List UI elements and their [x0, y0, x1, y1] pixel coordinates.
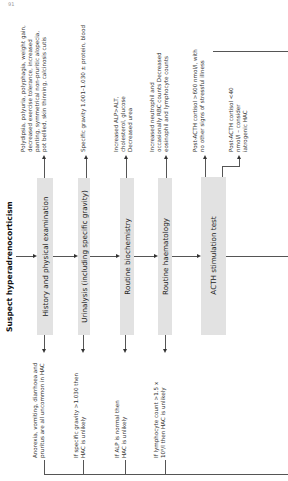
connector: [126, 158, 127, 178]
step-label: Routine haematology: [161, 178, 170, 335]
connector: [213, 51, 288, 52]
arrow-down-icon: [163, 349, 167, 353]
connector: [125, 335, 126, 349]
connector: [172, 256, 198, 257]
connector: [125, 460, 126, 474]
arrow-down-icon: [42, 349, 46, 353]
connector: [83, 460, 84, 474]
finding-biochemistry: Increased ALP>ALT, cholesterol, glucose …: [113, 70, 134, 152]
connector: [83, 335, 84, 349]
arrow-up-icon: [203, 155, 207, 159]
exclusion-history: Anorexia, vomiting, diarrhoea and prurit…: [32, 362, 46, 458]
connector: [90, 256, 117, 257]
step-label: Routine biochemistry: [123, 178, 132, 335]
connector: [222, 166, 223, 177]
step-box-history: History and physical examination: [37, 178, 53, 335]
arrow-up-icon: [42, 155, 46, 159]
connector: [239, 158, 240, 167]
arrow-up-icon: [237, 155, 241, 159]
arrow-down-icon: [81, 349, 85, 353]
exclusion-urinalysis: If specific gravity >1.030 then HAC is u…: [73, 368, 87, 458]
connector: [222, 166, 239, 167]
connector: [53, 256, 75, 257]
arrow-up-icon: [124, 155, 128, 159]
finding-urinalysis: Specific gravity 1.001–1.030 ± protein, …: [80, 24, 87, 152]
step-label: ACTH stimulation test: [209, 177, 218, 334]
connector: [44, 460, 45, 474]
connector: [44, 158, 45, 178]
finding-haematology: Increased neutrophil and occasionally RB…: [149, 52, 170, 152]
arrow-up-icon: [164, 155, 168, 159]
arrow-up-icon: [84, 155, 88, 159]
page-number: 91: [8, 1, 14, 7]
connector: [44, 335, 45, 349]
step-box-haematology: Routine haematology: [158, 178, 172, 335]
exclusion-haematology: If lymphocyte count >1.5 x 10⁹/l then HA…: [153, 378, 167, 458]
finding-acth-low: Post-ACTH cortisol <40 nmol/l – consider…: [228, 86, 249, 152]
flowchart-title: Suspect hyperadrenocorticism: [5, 201, 14, 332]
connector: [165, 460, 166, 474]
connector: [166, 158, 167, 178]
connector: [226, 256, 288, 257]
arrow-down-icon: [123, 349, 127, 353]
step-box-urinalysis: Urinalysis (including specific gravity): [78, 178, 90, 335]
connector: [205, 158, 206, 177]
finding-acth-high: Post-ACTH cortisol >600 nmol/l, with no …: [192, 42, 206, 152]
step-label: History and physical examination: [41, 178, 50, 335]
connector: [16, 256, 34, 257]
connector: [86, 158, 87, 178]
connector: [165, 335, 166, 349]
exclusion-biochemistry: If ALP is normal then HAC is unlikely: [114, 390, 128, 458]
finding-history: Polydipsia, polyuria, polyphagia, weight…: [20, 24, 48, 152]
step-box-acth: ACTH stimulation test: [201, 177, 226, 335]
step-box-biochemistry: Routine biochemistry: [120, 178, 134, 335]
connector: [134, 256, 155, 257]
step-label: Urinalysis (including specific gravity): [80, 178, 89, 335]
connector: [44, 474, 288, 475]
